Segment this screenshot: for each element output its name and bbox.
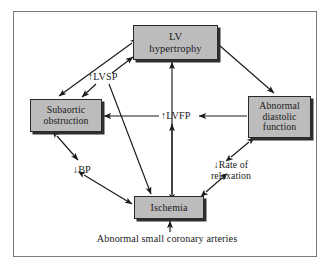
node-ischemia[interactable]: Ischemia: [134, 196, 204, 219]
node-lv-hypertrophy[interactable]: LV hypertrophy: [133, 25, 218, 60]
label-bp: ↓BP: [73, 164, 91, 175]
edge-diastolic-relaxation: [231, 142, 249, 157]
node-subaortic-obstruction-label: Subaortic obstruction: [41, 105, 90, 127]
label-rate-of-relaxation: ↓Rate of relaxation: [198, 160, 264, 182]
edge-lvh-subaortic: [59, 43, 132, 96]
label-lvsp: ↑LVSP: [88, 71, 118, 82]
edge-subaortic-bp: [57, 136, 78, 160]
label-lvfp: ↑LVFP: [161, 110, 191, 121]
node-lv-hypertrophy-label: LV hypertrophy: [147, 31, 203, 55]
node-ischemia-label: Ischemia: [149, 202, 190, 213]
edge-lvsp-ischemia: [109, 84, 151, 194]
diagram-canvas: LV hypertrophy Subaortic obstruction Abn…: [0, 0, 333, 271]
node-abnormal-diastolic-function-label: Abnormal diastolic function: [257, 101, 302, 134]
node-subaortic-obstruction[interactable]: Subaortic obstruction: [30, 99, 102, 132]
edge-lvh-diastolic: [219, 45, 274, 93]
edge-lvsp-subaortic: [82, 84, 96, 97]
edge-bp-ischemia: [84, 175, 132, 204]
label-abnormal-small-coronary-arteries: Abnormal small coronary arteries: [62, 233, 272, 244]
node-abnormal-diastolic-function[interactable]: Abnormal diastolic function: [248, 96, 311, 138]
